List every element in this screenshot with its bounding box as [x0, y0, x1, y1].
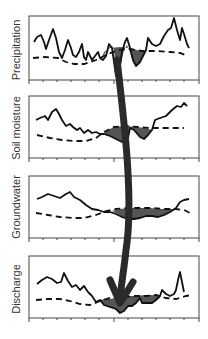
observed-line [36, 103, 187, 143]
ylabel-groundwater: Groundwater [10, 175, 22, 239]
x-ticks [29, 318, 199, 322]
panel-frame [29, 176, 199, 238]
panel-groundwater: Groundwater [10, 175, 199, 242]
ylabel-precipitation: Precipitation [10, 20, 22, 81]
x-ticks [29, 238, 199, 242]
panel-discharge: Discharge [10, 256, 199, 322]
drought-propagation-figure: Precipitation Soil moisture Groundwater [0, 0, 208, 339]
panel-soil-moisture: Soil moisture [10, 96, 199, 162]
ylabel-soil-moisture: Soil moisture [10, 96, 22, 160]
threshold-line [33, 49, 188, 64]
panel-precipitation: Precipitation [10, 16, 199, 84]
x-ticks [29, 80, 199, 84]
ylabel-discharge: Discharge [10, 264, 22, 314]
observed-line [37, 192, 189, 219]
observed-line [34, 18, 189, 78]
x-ticks [29, 158, 199, 162]
